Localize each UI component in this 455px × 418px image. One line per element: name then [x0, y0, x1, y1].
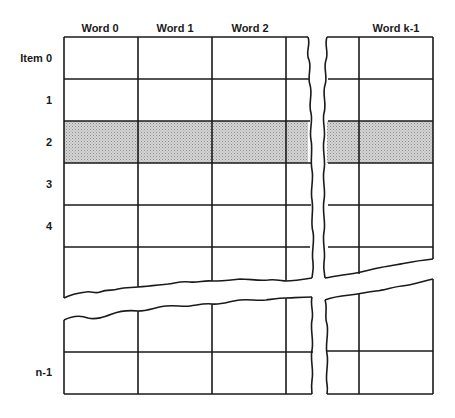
column-header-word-2: Word 2 — [231, 22, 268, 34]
row-label-n-1: n-1 — [12, 366, 52, 378]
column-header-word-0: Word 0 — [81, 22, 118, 34]
row-label-4: 4 — [12, 220, 52, 232]
row-label-1: 1 — [12, 94, 52, 106]
highlighted-row-2 — [64, 121, 433, 163]
column-header-word-1: Word 1 — [156, 22, 193, 34]
row-label-item-0: Item 0 — [12, 52, 52, 64]
row-label-3: 3 — [12, 178, 52, 190]
column-header-word-k-1: Word k-1 — [373, 22, 420, 34]
row-label-2: 2 — [12, 136, 52, 148]
grid-lines — [64, 37, 433, 394]
memory-grid-diagram — [0, 0, 455, 418]
